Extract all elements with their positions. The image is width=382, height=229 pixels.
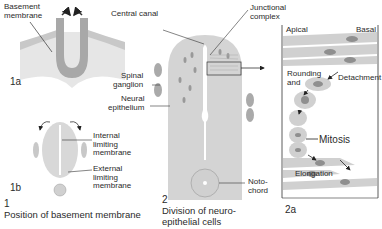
label-junctional-complex: Junctional complex — [250, 4, 286, 21]
panel-1b-neural-tube — [33, 122, 92, 196]
panel-2-caption: Division of neuro- epithelial cells — [162, 206, 236, 227]
label-elongation: Elongation — [295, 170, 333, 179]
tag-2a: 2a — [285, 204, 296, 215]
label-rounding-and: Rounding and — [287, 70, 321, 87]
panel-1a-neural-groove — [20, 13, 125, 89]
label-basement-membrane: Basement membrane — [4, 3, 42, 20]
label-detachment: Detachment — [338, 74, 381, 83]
label-basal: Basal — [356, 26, 376, 35]
panel-1-caption: Position of basement membrane — [4, 210, 141, 221]
panel-2-number: 2 — [162, 194, 168, 205]
label-spinal-ganglion: Spinal ganglion — [113, 72, 143, 89]
tag-1b: 1b — [10, 182, 21, 193]
panel-2-spinal-cord — [150, 10, 264, 200]
label-external-limiting-membrane: External limiting membrane — [93, 165, 131, 191]
label-internal-limiting-membrane: Internal limiting membrane — [93, 132, 131, 158]
label-central-canal: Central canal — [111, 10, 158, 19]
label-mitosis: Mitosis — [319, 134, 350, 145]
label-notochord: Noto- chord — [248, 178, 268, 195]
tag-1a: 1a — [10, 76, 21, 87]
label-apical: Apical — [286, 26, 308, 35]
panel-1-number: 1 — [4, 198, 10, 209]
label-neural-epithelium: Neural epithelium — [108, 95, 144, 112]
diagram-artwork — [0, 0, 382, 229]
